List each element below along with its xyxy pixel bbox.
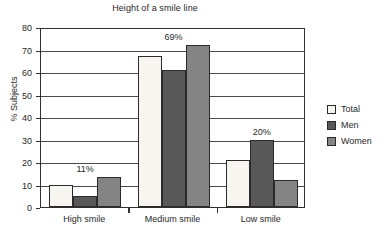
bar-chart: Height of a smile line % Subjects 807060… [0,0,386,237]
y-tick-label-0: 0 [2,204,32,213]
legend-swatch-women-icon [327,137,336,146]
y-tick-label-80: 80 [2,24,32,33]
legend-swatch-total-icon [327,105,336,114]
legend-item-total[interactable]: Total [327,101,372,117]
bar-women-low-smile [274,180,298,207]
bar-total-high-smile [49,185,73,208]
bar-men-high-smile [73,196,97,207]
legend-label: Women [341,136,372,146]
x-separator-2 [217,208,218,213]
plot-area: 11%69%20% [40,28,305,208]
value-label-medium-smile: 69% [154,32,194,42]
y-tick-label-10: 10 [2,182,32,191]
x-separator-1 [128,208,129,213]
x-label-low-smile: Low smile [217,214,305,224]
y-tick-label-60: 60 [2,69,32,78]
bar-men-medium-smile [162,70,186,207]
y-tick-label-70: 70 [2,47,32,56]
legend-label: Men [341,120,359,130]
value-label-low-smile: 20% [242,127,282,137]
y-tick-mark-0 [36,208,40,209]
chart-legend: TotalMenWomen [327,101,372,149]
bar-total-low-smile [226,160,250,207]
bar-women-medium-smile [186,45,210,207]
x-label-medium-smile: Medium smile [128,214,216,224]
value-label-high-smile: 11% [65,164,105,174]
gridline-70 [41,51,305,52]
x-label-high-smile: High smile [40,214,128,224]
legend-label: Total [341,104,360,114]
bar-men-low-smile [250,140,274,208]
y-tick-label-40: 40 [2,114,32,123]
legend-swatch-men-icon [327,121,336,130]
y-tick-label-50: 50 [2,92,32,101]
bar-total-medium-smile [138,56,162,207]
legend-item-women[interactable]: Women [327,133,372,149]
bar-women-high-smile [97,177,121,207]
chart-title: Height of a smile line [0,3,310,13]
legend-item-men[interactable]: Men [327,117,372,133]
y-tick-label-20: 20 [2,159,32,168]
gridline-80 [41,28,305,29]
y-tick-label-30: 30 [2,137,32,146]
